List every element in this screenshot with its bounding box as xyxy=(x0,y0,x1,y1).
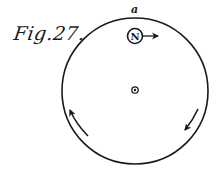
center-pivot-icon xyxy=(132,87,138,93)
point-label-a: a xyxy=(131,3,138,16)
figure-caption: Fig.27. xyxy=(12,22,86,44)
rotation-arrow-right-icon xyxy=(185,109,198,130)
pole-label: N xyxy=(130,31,139,42)
rotation-arrow-left-icon xyxy=(70,110,88,136)
